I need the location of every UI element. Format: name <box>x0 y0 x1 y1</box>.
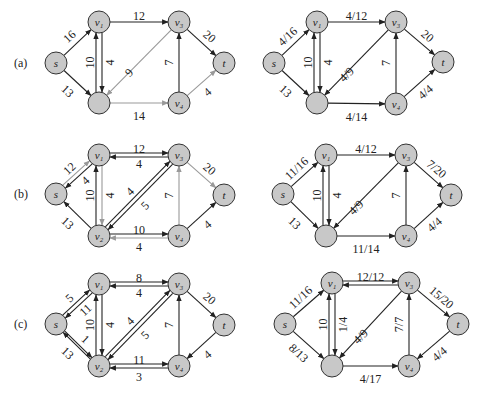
node-label-s: s <box>54 57 58 69</box>
node-label-v1: v₁ <box>328 277 337 289</box>
edges: 12413104124451047204 <box>58 142 218 254</box>
edge-capacity-label: 12 <box>133 142 145 156</box>
edge-capacity-label: 7 <box>389 193 403 199</box>
edge-capacity-label: 5 <box>138 198 152 212</box>
node-label-v3: v₃ <box>175 149 184 161</box>
node-label-s: s <box>281 188 285 200</box>
edge-capacity-label: 3 <box>136 370 142 384</box>
edge-capacity-label: 13 <box>58 214 76 232</box>
row-label: (a) <box>14 56 27 70</box>
edge-capacity-label: 4 <box>136 240 142 254</box>
node-v2 <box>321 355 343 377</box>
edge-capacity-label: 1 <box>79 332 93 346</box>
edge-t-v4 <box>187 332 216 358</box>
node-label-v4: v₄ <box>402 230 411 242</box>
edge-capacity-label: 15/20 <box>427 283 457 311</box>
panel-b-right: 11/16131044/124/911/1477/204/4sv₁v₃v₄t <box>272 142 462 256</box>
edge-v4-t <box>187 202 216 228</box>
edge-capacity-label: 11/14 <box>353 242 380 256</box>
edge-capacity-label: 4 <box>136 157 142 171</box>
node-label-v4: v₄ <box>175 360 184 372</box>
node-label-v4: v₄ <box>405 360 414 372</box>
node-label-v2: v₂ <box>95 360 104 372</box>
edges: 51113110484451137204 <box>58 271 218 384</box>
edge-capacity-label: 13 <box>58 82 76 100</box>
flow-network-figure: (a)1613104129147204sv₁v₃v₄t4/16131044/12… <box>0 0 479 395</box>
edge-capacity-label: 10 <box>301 57 315 69</box>
node-label-v2: v₂ <box>95 230 104 242</box>
edge-capacity-label: 4 <box>201 347 215 362</box>
edge-capacity-label: 4 <box>201 217 215 232</box>
node-label-v3: v₃ <box>405 277 414 289</box>
node-label-v1: v₁ <box>95 278 104 290</box>
edge-capacity-label: 20 <box>200 160 218 178</box>
edge-capacity-label: 4/16 <box>275 24 300 49</box>
node-label-s: s <box>272 57 276 69</box>
node-label-v3: v₃ <box>402 149 411 161</box>
node-label-s: s <box>54 318 58 330</box>
node-label-v4: v₄ <box>175 230 184 242</box>
edge-capacity-label: 11/16 <box>286 283 315 312</box>
node-label-v1: v₁ <box>322 149 331 161</box>
edge-capacity-label: 13 <box>276 82 294 100</box>
edge-capacity-label: 4/9 <box>336 64 357 85</box>
node-v2 <box>315 225 337 247</box>
node-label-v1: v₁ <box>95 149 104 161</box>
edge-capacity-label: 4/12 <box>346 9 367 23</box>
edge-capacity-label: 4/12 <box>355 142 376 156</box>
edge-capacity-label: 10 <box>316 319 330 331</box>
panel-b-left: (b)12413104124451047204sv₁v₂v₃v₄t <box>14 142 235 254</box>
edge-capacity-label: 4/14 <box>346 110 367 124</box>
edges: 11/16131044/124/911/1477/204/4 <box>282 142 449 256</box>
edge-capacity-label: 7/7 <box>392 317 406 332</box>
node-label-v1: v₁ <box>313 16 322 28</box>
edge-capacity-label: 10 <box>133 223 145 237</box>
node-v2 <box>306 92 328 114</box>
edge-capacity-label: 4/17 <box>360 372 381 386</box>
edge-capacity-label: 10 <box>83 319 97 331</box>
edge-capacity-label: 13 <box>58 344 76 362</box>
panel-a-right: 4/16131044/124/94/147204/4sv₁v₃v₄t <box>263 9 454 124</box>
edge-capacity-label: 4 <box>103 60 117 66</box>
edge-capacity-label: 12/12 <box>357 270 384 284</box>
edge-capacity-label: 7 <box>162 322 176 328</box>
row-label: (b) <box>14 187 28 201</box>
node-label-v4: v₄ <box>392 98 401 110</box>
node-label-v3: v₃ <box>392 16 401 28</box>
edge-capacity-label: 10 <box>83 57 97 69</box>
nodes: sv₁v₃v₄t <box>45 11 235 114</box>
edge-capacity-label: 5 <box>138 328 152 342</box>
node-label-s: s <box>283 318 287 330</box>
edge-capacity-label: 5 <box>63 291 77 305</box>
node-label-v4: v₄ <box>175 97 184 109</box>
edge-v2-v4 <box>328 103 385 104</box>
edge-capacity-label: 10 <box>83 190 97 202</box>
edge-capacity-label: 20 <box>200 289 218 307</box>
edge-capacity-label: 4 <box>136 286 142 300</box>
edge-capacity-label: 13 <box>285 214 303 232</box>
node-v2 <box>88 92 110 114</box>
edge-v4-t <box>187 70 216 95</box>
edge-capacity-label: 14 <box>133 109 145 123</box>
row-label: (c) <box>14 317 27 331</box>
edges: 4/16131044/124/94/147204/4 <box>275 9 437 124</box>
edge-capacity-label: 7/20 <box>424 157 449 181</box>
edge-capacity-label: 1/4 <box>336 317 350 332</box>
node-label-v1: v₁ <box>95 16 104 28</box>
edge-capacity-label: 11/16 <box>282 154 311 183</box>
edge-capacity-label: 7 <box>379 60 393 66</box>
edge-capacity-label: 8 <box>136 271 142 285</box>
edges: 11/168/13101/412/124/94/177/715/204/4 <box>286 270 457 386</box>
edge-capacity-label: 20 <box>418 27 436 45</box>
edge-capacity-label: 4 <box>330 193 344 199</box>
edge-capacity-label: 12 <box>133 9 145 23</box>
edge-capacity-label: 20 <box>200 27 218 45</box>
edges: 1613104129147204 <box>58 9 218 123</box>
edge-capacity-label: 4 <box>79 173 93 187</box>
edge-capacity-label: 4 <box>103 322 117 328</box>
edge-capacity-label: 11 <box>133 353 145 367</box>
edge-capacity-label: 7 <box>162 60 176 66</box>
node-label-v3: v₃ <box>175 16 184 28</box>
panel-a-left: (a)1613104129147204sv₁v₃v₄t <box>14 9 235 123</box>
edge-capacity-label: 4 <box>321 60 335 66</box>
